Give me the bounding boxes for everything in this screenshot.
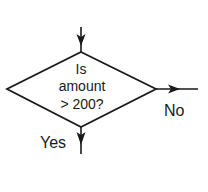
flowchart-canvas: Is amount > 200? No Yes: [0, 0, 208, 192]
no-branch-arrow: [156, 85, 198, 94]
yes-branch-label: Yes: [40, 134, 66, 151]
yes-branch-arrow: [77, 127, 86, 154]
no-branch-label: No: [164, 102, 185, 119]
decision-text-line-1: Is: [76, 61, 87, 77]
decision-text-line-2: amount: [59, 78, 106, 94]
incoming-arrow: [77, 27, 86, 52]
decision-text-line-3: > 200?: [60, 96, 103, 112]
flowchart-svg: Is amount > 200? No Yes: [0, 0, 208, 192]
